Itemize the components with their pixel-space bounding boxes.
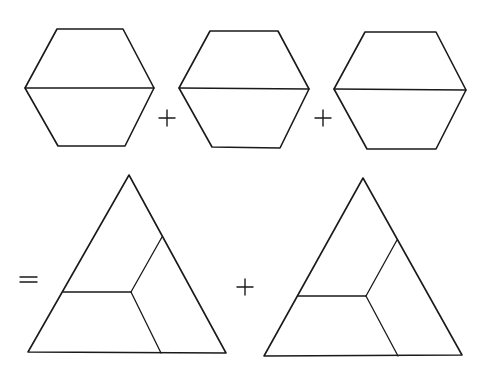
hexagon-1 [25,29,154,146]
triangle-1-outline [28,175,226,353]
plus-1-sign [159,110,175,126]
triangle-row [28,175,462,356]
triangle-1-cut-right [131,237,162,292]
dissection-diagram [0,0,487,376]
plus-3-sign [237,279,253,295]
diagram-svg [0,0,487,376]
hexagon-3 [334,32,466,149]
triangle-2-cut-right [366,240,397,296]
plus-2-sign [315,110,331,126]
triangle-1 [28,175,226,353]
triangle-2-outline [264,178,462,356]
triangle-2 [264,178,462,356]
equals-sign [20,277,37,282]
triangle-2-cut-bottom [366,296,398,356]
triangle-1-cut-bottom [131,292,161,353]
hexagon-row [25,29,466,149]
hexagon-2 [179,31,309,148]
hexagon-3-divider [334,89,466,90]
hexagon-2-divider [179,88,309,89]
